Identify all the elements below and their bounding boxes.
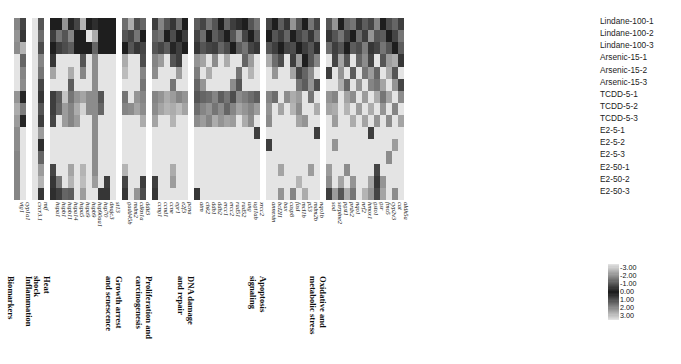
heatmap-cell (110, 139, 116, 151)
heatmap-cell (182, 91, 188, 103)
heatmap-row (32, 115, 44, 127)
heatmap-cell (314, 127, 320, 139)
heatmap-row (14, 103, 26, 115)
heatmap-cell (20, 188, 26, 200)
heatmap-row (266, 127, 320, 139)
heatmap-row (194, 79, 260, 91)
heatmap-cell (398, 79, 404, 91)
heatmap-row (122, 42, 146, 54)
heatmap-cell (254, 176, 260, 188)
heatmap-cell (38, 115, 44, 127)
heatmap-cell (140, 103, 146, 115)
heatmap-cell (20, 54, 26, 66)
sample-label: TCDD-5-1 (600, 88, 680, 100)
heatmap-cell (254, 79, 260, 91)
heatmap-grid (266, 18, 320, 200)
heatmap-row (14, 115, 26, 127)
heatmap-row (122, 91, 146, 103)
heatmap-cell (20, 139, 26, 151)
heatmap-cell (20, 151, 26, 163)
heatmap-cell (20, 79, 26, 91)
heatmap-cell (314, 30, 320, 42)
heatmap-cell (182, 18, 188, 30)
heatmap-row (50, 151, 116, 163)
heatmap-row (266, 42, 320, 54)
heatmap-cell (314, 115, 320, 127)
heatmap-row (32, 91, 44, 103)
heatmap-row (194, 103, 260, 115)
heatmap-cell (254, 91, 260, 103)
heatmap-cell (182, 67, 188, 79)
heatmap-cell (314, 42, 320, 54)
heatmap-block: gadd45bmdm2cdkn1addit3Growth arrestand s… (122, 18, 146, 200)
heatmap-cell (38, 42, 44, 54)
heatmap-row (14, 164, 26, 176)
heatmap-row (266, 151, 320, 163)
heatmap-row (194, 188, 260, 200)
heatmap-row (14, 188, 26, 200)
heatmap-row (14, 127, 26, 139)
heatmap-cell (254, 151, 260, 163)
heatmap-block: vtg1cyp1a1Biomarkers (14, 18, 26, 200)
heatmap-row (122, 188, 146, 200)
sample-label: TCDD-5-2 (600, 100, 680, 112)
heatmap-cell (110, 164, 116, 176)
heatmap-block: annexinbcl2l1baxcasp8faslmcl1bp53mdm2bnq… (266, 18, 320, 200)
heatmap-cell (398, 176, 404, 188)
sample-label: E2-5-1 (600, 124, 680, 136)
figure-root: vtg1cyp1a1Biomarkerscxcr3.1mifInflammati… (0, 0, 681, 364)
heatmap-cell (254, 115, 260, 127)
heatmap-cell (398, 18, 404, 30)
heatmap-cell (140, 188, 146, 200)
heatmap-cell (20, 176, 26, 188)
category-label: Oxidative andmetabolic stress (308, 276, 327, 334)
heatmap-row (122, 139, 146, 151)
heatmap-cell (140, 67, 146, 79)
heatmap-row (152, 42, 188, 54)
heatmap-cell (110, 18, 116, 30)
gene-label-group: annexinbcl2l1baxcasp8faslmcl1bp53mdm2bnq… (266, 202, 320, 272)
heatmap-cell (110, 79, 116, 91)
heatmap-cell (110, 188, 116, 200)
heatmap-row (266, 91, 320, 103)
heatmap-cell (398, 151, 404, 163)
heatmap-cell (398, 188, 404, 200)
heatmap-cell (110, 151, 116, 163)
heatmap-row (326, 176, 404, 188)
heatmap-row (326, 79, 404, 91)
heatmap-row (194, 164, 260, 176)
heatmap-row (152, 54, 188, 66)
heatmap-row (50, 42, 116, 54)
heatmap-cell (38, 103, 44, 115)
heatmap-row (122, 18, 146, 30)
heatmap-row (266, 115, 320, 127)
sample-label: Arsenic-15-3 (600, 76, 680, 88)
heatmap-row (14, 30, 26, 42)
heatmap-cell (20, 67, 26, 79)
heatmap-cell (314, 151, 320, 163)
heatmap-row (326, 91, 404, 103)
heatmap-cell (20, 164, 26, 176)
heatmap-cell (182, 30, 188, 42)
heatmap-cell (110, 67, 116, 79)
heatmap-cell (314, 139, 320, 151)
heatmap-row (326, 42, 404, 54)
heatmap-cell (398, 164, 404, 176)
heatmap-row (326, 164, 404, 176)
heatmap-row (266, 54, 320, 66)
heatmap-row (122, 151, 146, 163)
legend-tick: 3.00 (620, 312, 636, 320)
heatmap-cell (314, 91, 320, 103)
heatmap-cell (254, 42, 260, 54)
heatmap-row (14, 18, 26, 30)
heatmap-cell (140, 91, 146, 103)
heatmap-cell (314, 54, 320, 66)
heatmap-row (194, 139, 260, 151)
heatmap-row (326, 188, 404, 200)
heatmap-cell (140, 139, 146, 151)
heatmap-cell (314, 164, 320, 176)
heatmap-row (122, 164, 146, 176)
heatmap-row (32, 54, 44, 66)
heatmap-cell (140, 79, 146, 91)
heatmap-row (32, 30, 44, 42)
